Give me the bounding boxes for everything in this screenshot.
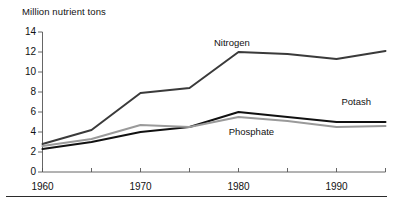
series-label-potash: Potash [341, 97, 371, 107]
y-axis-tick-label: 2 [16, 147, 36, 157]
y-axis-tick-label: 14 [16, 27, 36, 37]
y-axis-tick-label: 10 [16, 67, 36, 77]
y-axis-tick-label: 6 [16, 107, 36, 117]
x-axis-tick-label: 1960 [23, 182, 63, 192]
chart-figure: Million nutrient tons 02468101214 196019… [0, 0, 393, 223]
y-axis-tick-label: 8 [16, 87, 36, 97]
bottom-rule [6, 196, 387, 197]
x-axis-tick-label: 1970 [121, 182, 161, 192]
series-line-nitrogen [43, 51, 386, 144]
y-axis-tick-label: 4 [16, 127, 36, 137]
y-axis-tick-label: 0 [16, 167, 36, 177]
series-label-nitrogen: Nitrogen [214, 38, 250, 48]
series-line-potash [43, 112, 386, 149]
axis-spine [43, 32, 386, 172]
x-axis-tick-label: 1980 [219, 182, 259, 192]
y-axis-tick-label: 12 [16, 47, 36, 57]
x-axis-tick-label: 1990 [317, 182, 357, 192]
series-label-phosphate: Phosphate [229, 127, 274, 137]
